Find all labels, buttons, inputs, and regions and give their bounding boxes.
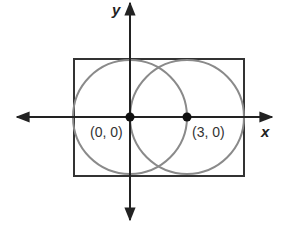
coordinate-plane (0, 0, 289, 236)
y-axis-label: y (112, 2, 120, 17)
point-origin-label: (0, 0) (90, 125, 123, 139)
point-origin (126, 113, 135, 122)
point-3-0 (183, 113, 192, 122)
diagram-canvas: y x (0, 0) (3, 0) (0, 0, 289, 236)
x-axis-label: x (261, 124, 269, 139)
point-3-0-label: (3, 0) (192, 125, 225, 139)
